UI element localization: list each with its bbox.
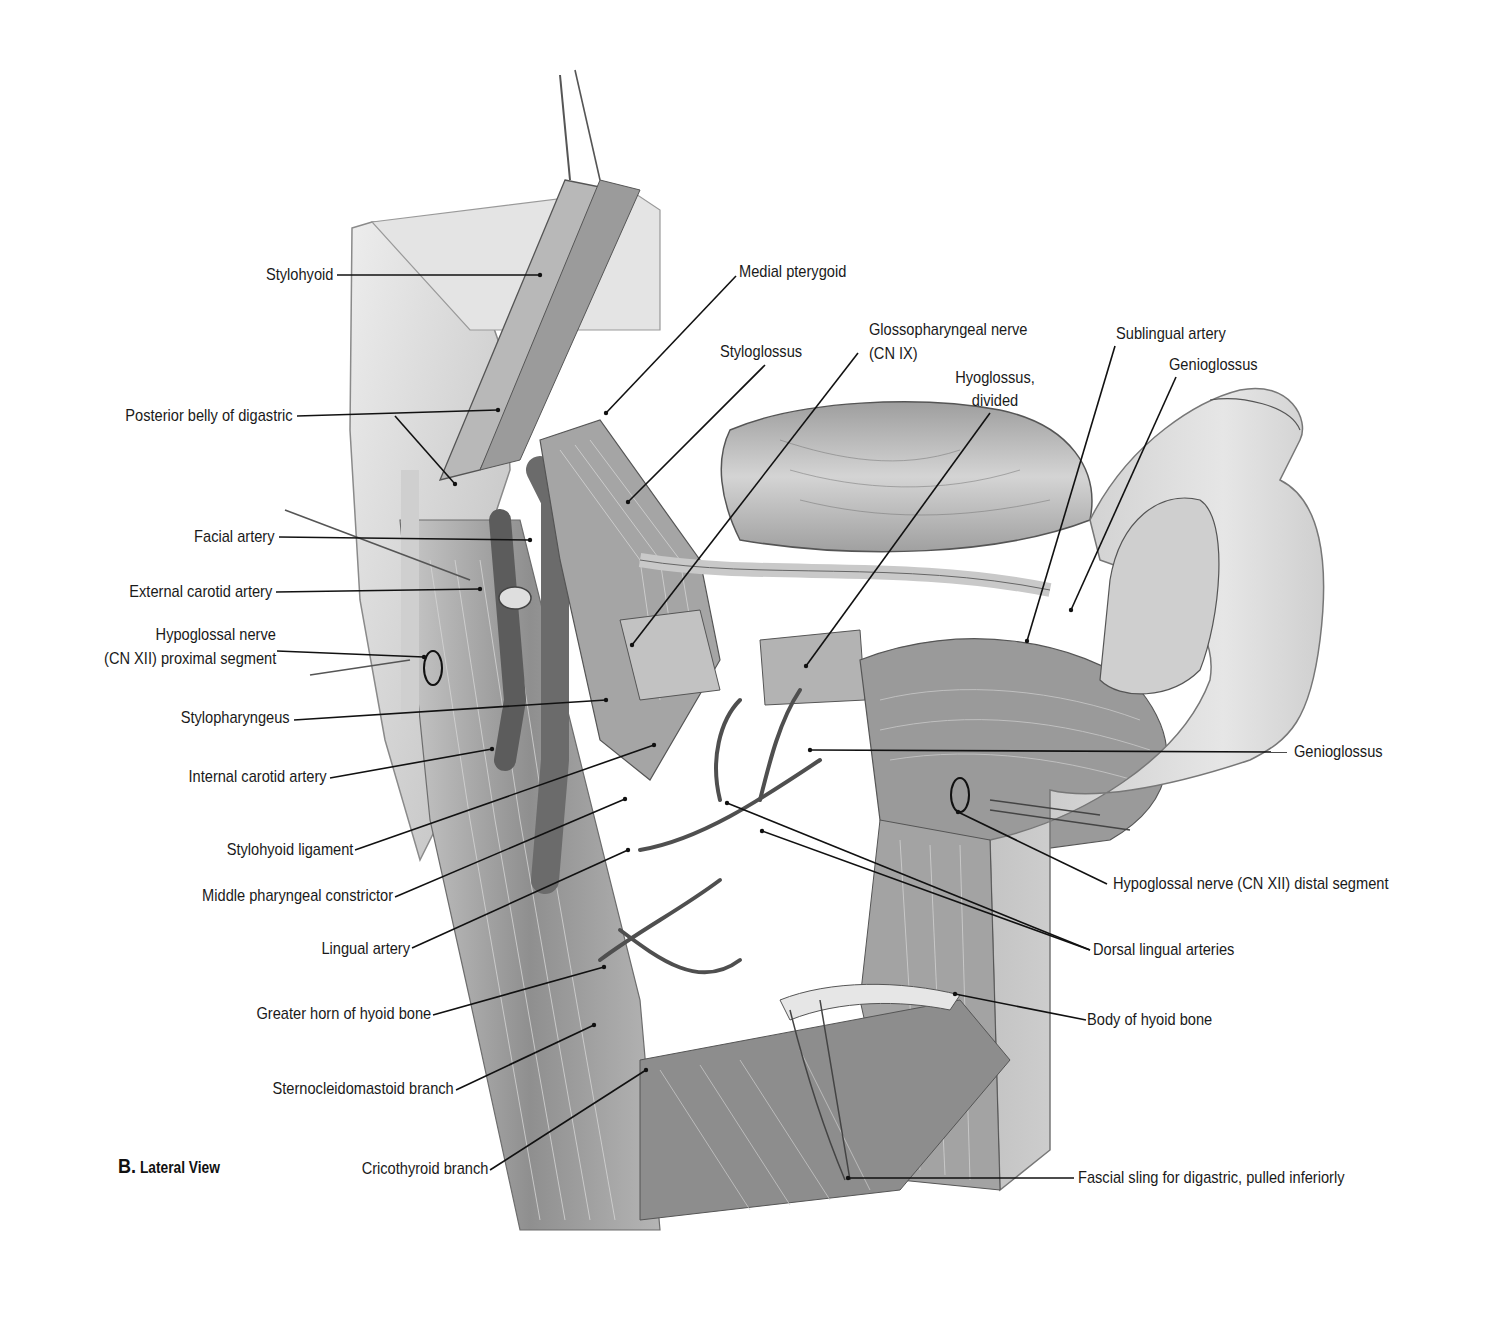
label-genioglossus-top: Genioglossus xyxy=(1169,355,1258,375)
label-glossopharyngeal-line1: Glossopharyngeal nerve xyxy=(869,320,1027,340)
label-external-carotid-artery: External carotid artery xyxy=(129,582,272,602)
label-dorsal-lingual-arteries: Dorsal lingual arteries xyxy=(1093,940,1234,960)
panel-title: Lateral View xyxy=(140,1159,220,1176)
anatomical-figure: Stylohyoid Posterior belly of digastric … xyxy=(0,0,1503,1332)
label-lingual-artery: Lingual artery xyxy=(321,939,410,959)
label-stylohyoid-ligament: Stylohyoid ligament xyxy=(226,840,353,860)
label-hypoglossal-proximal-line1: Hypoglossal nerve xyxy=(156,625,276,645)
label-stylohyoid: Stylohyoid xyxy=(266,265,333,285)
label-facial-artery: Facial artery xyxy=(195,527,275,547)
label-hypoglossal-proximal-line2: (CN XII) proximal segment xyxy=(104,649,276,669)
label-sternocleidomastoid-branch: Sternocleidomastoid branch xyxy=(273,1079,454,1099)
label-hyoglossus-line2: divided xyxy=(948,391,1043,411)
label-body-hyoid: Body of hyoid bone xyxy=(1087,1010,1212,1030)
label-greater-horn-hyoid: Greater horn of hyoid bone xyxy=(256,1004,431,1024)
panel-letter: B. xyxy=(118,1154,136,1177)
label-internal-carotid-artery: Internal carotid artery xyxy=(189,767,327,787)
label-genioglossus-right: Genioglossus xyxy=(1294,742,1383,762)
label-fascial-sling: Fascial sling for digastric, pulled infe… xyxy=(1078,1168,1345,1188)
label-posterior-belly-digastric: Posterior belly of digastric xyxy=(126,406,293,426)
label-cricothyroid-branch: Cricothyroid branch xyxy=(361,1159,488,1179)
label-stylopharyngeus: Stylopharyngeus xyxy=(181,708,290,728)
label-sublingual-artery: Sublingual artery xyxy=(1116,324,1226,344)
label-hyoglossus-line1: Hyoglossus, xyxy=(948,368,1043,388)
label-medial-pterygoid: Medial pterygoid xyxy=(739,262,846,282)
label-hypoglossal-distal: Hypoglossal nerve (CN XII) distal segmen… xyxy=(1113,874,1388,894)
tongue xyxy=(721,402,1092,552)
label-middle-pharyngeal-constrictor: Middle pharyngeal constrictor xyxy=(202,886,393,906)
label-glossopharyngeal-line2: (CN IX) xyxy=(869,344,918,364)
label-styloglossus: Styloglossus xyxy=(720,342,802,362)
panel-caption: B. Lateral View xyxy=(118,1154,220,1178)
